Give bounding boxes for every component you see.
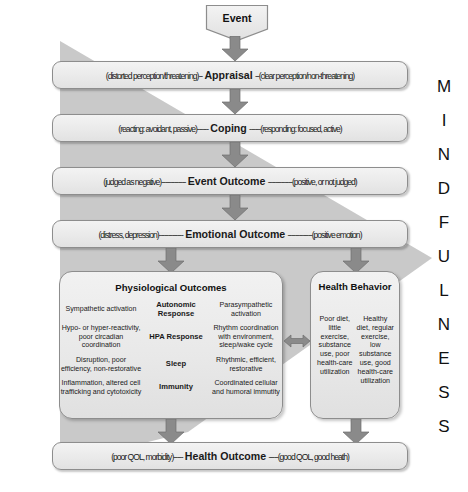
event-outcome-left-label: (judged as negative)------------- [103,177,185,187]
arrow-coping-to-event-outcome [219,142,251,168]
emotional-outcome-title: Emotional Outcome [185,228,285,240]
phys-row0-negative: Sympathetic activation [60,301,142,318]
phys-row3-positive: Coordinated cellular and humoral immutit… [210,379,282,396]
physiological-outcomes-panel: Physiological Outcomes Sympathetic activ… [59,271,283,419]
arrow-bidirectional-physiological-health-behavior [284,333,310,349]
phys-row3-system: Immunity [144,379,208,396]
health-outcome-left-label: (poor QOL, morbidity)----- [111,452,182,462]
phys-row0-system: Autonomic Response [144,301,208,318]
emotional-outcome-left-label: (distress, depression)------------- [98,230,182,240]
coping-title: Coping [210,122,246,134]
phys-row0-positive: Parasympathetic activation [210,301,282,318]
mindfulness-letter-3: D [438,172,450,206]
mindfulness-letter-10: S [438,410,449,444]
mindfulness-letter-7: N [438,308,450,342]
coping-right-label: ------(responding: focused, active) [249,124,342,134]
physiological-outcomes-grid: Sympathetic activation Autonomic Respons… [66,301,276,396]
health-outcome-right-label: -----(good QOL, good heath) [268,452,348,462]
phys-row2-negative: Disruption, poor efficiency, non-restora… [60,356,142,373]
mindfulness-letter-5: U [438,240,450,274]
event-label: Event [205,12,269,24]
health-behavior-title: Health Behavior [311,281,399,292]
arrow-event-outcome-to-emotional-outcome [219,195,251,221]
phys-row3-negative: Inflammation, altered cell trafficking a… [60,379,142,396]
coping-left-label: (reacting: avoidant, passive)------ [118,124,208,134]
stage-bar-health-outcome: (poor QOL, morbidity)----- Health Outcom… [52,442,408,470]
phys-row2-positive: Rhythmic, efficient, restorative [210,356,282,373]
health-behavior-panel: Health Behavior Poor diet, little exerci… [310,271,400,419]
appraisal-left-label: (distorted perception/threatening)-- [106,71,202,81]
phys-row1-system: HPA Response [144,324,208,350]
arrow-event-to-appraisal [219,36,251,62]
emotional-outcome-right-label: -------------(positive emotion) [287,230,361,240]
physiological-outcomes-title: Physiological Outcomes [60,282,282,293]
stage-bar-appraisal: (distorted perception/threatening)-- App… [52,61,408,89]
mindfulness-letter-0: M [437,70,451,104]
arrow-appraisal-to-coping [219,89,251,115]
appraisal-title: Appraisal [204,69,252,81]
health-behavior-positive: Healthy diet, regular exercise, low subs… [357,315,395,385]
health-behavior-negative: Poor diet, little exercise, substance us… [316,315,354,385]
health-outcome-title: Health Outcome [185,450,266,462]
stage-bar-event-outcome: (judged as negative)------------- Event … [52,167,408,195]
phys-row2-system: Sleep [144,356,208,373]
mindfulness-stress-model-diagram: Event (distorted perception/threatening)… [0,0,468,492]
mindfulness-label: M I N D F U L N E S S [424,70,464,444]
mindfulness-letter-1: I [442,104,447,138]
mindfulness-letter-6: L [439,274,448,308]
health-behavior-grid: Poor diet, little exercise, substance us… [316,315,394,385]
event-outcome-right-label: -------------(positive, or not judged) [268,177,357,187]
stage-bar-emotional-outcome: (distress, depression)------------- Emot… [52,220,408,248]
mindfulness-letter-4: F [439,206,449,240]
mindfulness-letter-9: S [438,376,449,410]
phys-row1-negative: Hypo- or hyper-reactivity, poor circadia… [60,324,142,350]
phys-row1-positive: Rhythm coordination with environment, sl… [210,324,282,350]
stage-bar-coping: (reacting: avoidant, passive)------ Copi… [52,114,408,142]
mindfulness-letter-2: N [438,138,450,172]
mindfulness-letter-8: E [438,342,449,376]
event-outcome-title: Event Outcome [188,175,266,187]
appraisal-right-label: --(clear perception/non-threatening) [255,71,354,81]
